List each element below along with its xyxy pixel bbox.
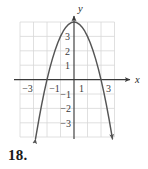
y-tick-label: 3 xyxy=(65,31,70,42)
x-tick-label: 3 xyxy=(106,83,111,94)
graph-figure: y x −3 −1 1 3 3 2 1 −1 −2 −3 xyxy=(0,0,148,145)
y-tick-label: −2 xyxy=(60,103,71,114)
y-tick-label: −1 xyxy=(60,89,71,100)
x-tick-label: −3 xyxy=(22,83,33,94)
x-tick-label: −1 xyxy=(49,83,60,94)
y-tick-label: 2 xyxy=(65,46,70,57)
x-axis-label: x xyxy=(134,74,140,85)
y-tick-label: 1 xyxy=(65,60,70,71)
y-tick-label: −3 xyxy=(60,118,71,129)
exercise-number: 18. xyxy=(8,145,27,165)
y-axis-label: y xyxy=(77,3,83,14)
x-tick-label: 1 xyxy=(79,83,84,94)
